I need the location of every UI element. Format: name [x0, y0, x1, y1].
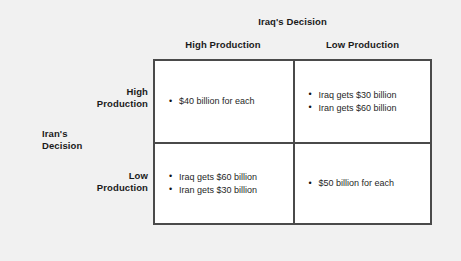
- payoff-matrix-grid: $40 billion for each Iraq gets $30 billi…: [153, 59, 432, 225]
- row-header-high-production-line1: High: [28, 86, 148, 98]
- column-group-title: Iraq's Decision: [153, 16, 432, 27]
- row-header-low-production-line2: Production: [28, 182, 148, 194]
- payoff-cell-low-low: $50 billion for each: [293, 142, 431, 223]
- payoff-item: $40 billion for each: [169, 95, 287, 108]
- payoff-item: Iraq gets $30 billion: [309, 89, 425, 102]
- row-group-title: Iran's Decision: [42, 128, 122, 152]
- payoff-item: Iran gets $60 billion: [309, 102, 425, 115]
- row-header-high-production: High Production: [28, 86, 148, 110]
- payoff-item: Iran gets $30 billion: [169, 184, 287, 197]
- payoff-list: Iraq gets $60 billion Iran gets $30 bill…: [169, 171, 287, 197]
- column-header-low-production: Low Production: [293, 39, 432, 50]
- row-header-low-production: Low Production: [28, 170, 148, 194]
- row-header-low-production-line1: Low: [28, 170, 148, 182]
- payoff-list: $50 billion for each: [309, 177, 425, 190]
- payoff-matrix-figure: Iraq's Decision High Production Low Prod…: [0, 0, 461, 261]
- payoff-list: Iraq gets $30 billion Iran gets $60 bill…: [309, 89, 425, 115]
- payoff-cell-high-high: $40 billion for each: [155, 61, 293, 142]
- row-group-title-line1: Iran's: [42, 128, 122, 140]
- column-header-high-production: High Production: [153, 39, 293, 50]
- row-group-title-line2: Decision: [42, 140, 122, 152]
- row-header-high-production-line2: Production: [28, 98, 148, 110]
- payoff-cell-high-low: Iraq gets $30 billion Iran gets $60 bill…: [293, 61, 431, 142]
- payoff-item: Iraq gets $60 billion: [169, 171, 287, 184]
- payoff-cell-low-high: Iraq gets $60 billion Iran gets $30 bill…: [155, 142, 293, 223]
- payoff-item: $50 billion for each: [309, 177, 425, 190]
- payoff-list: $40 billion for each: [169, 95, 287, 108]
